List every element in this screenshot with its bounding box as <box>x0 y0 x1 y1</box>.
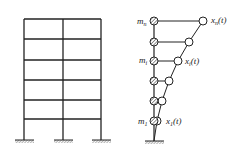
label-displacement-i: xi(t) <box>184 56 199 67</box>
building-frame <box>24 19 101 140</box>
displaced-mass-n <box>199 17 207 25</box>
fixed-supports <box>15 140 111 143</box>
displaced-mass <box>165 77 173 85</box>
displaced-masses <box>153 17 207 125</box>
displaced-mass-i <box>174 57 182 65</box>
label-displacement-n: xn(t) <box>210 15 227 26</box>
fixed-support-model <box>145 141 164 144</box>
label-displacement-1: x1(t) <box>165 116 182 127</box>
displaced-mass <box>185 38 193 46</box>
displaced-mass <box>158 97 166 105</box>
label-mass-n: mn <box>137 16 147 27</box>
label-mass-i: mi <box>139 55 148 66</box>
structural-dynamics-diagram: mn mi m1 xn(t) xi(t) x1(t) <box>0 0 237 162</box>
label-mass-1: m1 <box>138 116 148 127</box>
